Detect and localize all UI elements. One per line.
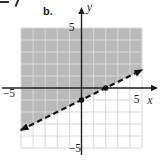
marked-point [103, 85, 108, 90]
x-axis-label: x [146, 93, 153, 107]
graph-canvas: 5−5−55xy [0, 0, 163, 161]
y-axis-arrowhead [78, 7, 84, 14]
inequality-graph-figure: b. 5−5−55xy [0, 0, 163, 161]
marked-point [79, 97, 84, 102]
x-axis-tick-label-right: 5 [134, 93, 140, 105]
y-axis-tick-label-bottom: −5 [69, 142, 81, 154]
y-axis-tick-label-top: 5 [69, 21, 75, 33]
x-axis-arrowhead [151, 85, 158, 91]
x-axis-tick-label-left: −5 [3, 87, 15, 99]
y-axis-label: y [86, 0, 93, 14]
